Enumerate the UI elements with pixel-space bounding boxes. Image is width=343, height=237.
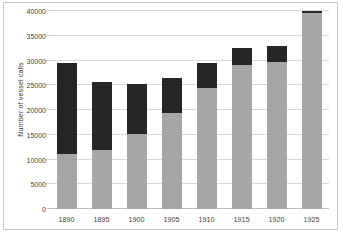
bar-segment-lower[interactable] — [197, 88, 217, 209]
bar-group[interactable]: 1925 — [302, 11, 322, 209]
bar-segment-upper[interactable] — [197, 63, 217, 88]
y-axis-tick-mark — [46, 134, 49, 135]
y-axis-tick-label: 30000 — [6, 58, 46, 65]
x-axis-tick-label: 1915 — [223, 215, 261, 224]
x-axis-tick-label: 1925 — [293, 215, 331, 224]
chart-frame: Number of vessel calls 05000100001500020… — [3, 2, 338, 230]
bar-group[interactable]: 1900 — [127, 11, 147, 209]
x-axis-tick-label: 1920 — [258, 215, 296, 224]
y-axis-tick-mark — [46, 60, 49, 61]
x-axis-tick-label: 1905 — [153, 215, 191, 224]
bar-segment-upper[interactable] — [57, 63, 77, 154]
bar-segment-lower[interactable] — [302, 13, 322, 210]
bar-group[interactable]: 1895 — [92, 11, 112, 209]
y-axis-tick-mark — [46, 159, 49, 160]
bar-segment-lower[interactable] — [232, 65, 252, 209]
bar-segment-lower[interactable] — [92, 150, 112, 209]
bar-segment-lower[interactable] — [57, 154, 77, 209]
bar-group[interactable]: 1890 — [57, 11, 77, 209]
bar-segment-upper[interactable] — [127, 84, 147, 134]
y-axis-tick-mark — [46, 84, 49, 85]
bar-segment-lower[interactable] — [267, 62, 287, 209]
y-axis-tick-label: 35000 — [6, 33, 46, 40]
bar-group[interactable]: 1905 — [162, 11, 182, 209]
y-axis-tick-label: 15000 — [6, 132, 46, 139]
bar-segment-upper[interactable] — [302, 11, 322, 12]
y-axis-tick-label: 40000 — [6, 8, 46, 15]
x-axis-tick-label: 1910 — [188, 215, 226, 224]
bar-segment-lower[interactable] — [162, 113, 182, 209]
bar-group[interactable]: 1915 — [232, 11, 252, 209]
bar-segment-upper[interactable] — [92, 82, 112, 149]
bar-group[interactable]: 1920 — [267, 11, 287, 209]
y-axis-tick-label: 0 — [6, 206, 46, 213]
y-axis-tick-label: 5000 — [6, 181, 46, 188]
bar-segment-upper[interactable] — [267, 46, 287, 62]
bar-segment-lower[interactable] — [127, 134, 147, 209]
plot-area: 0500010000150002000025000300003500040000… — [49, 11, 329, 209]
bar-segment-upper[interactable] — [162, 78, 182, 113]
y-axis-tick-label: 25000 — [6, 82, 46, 89]
y-axis-tick-mark — [46, 35, 49, 36]
x-axis-tick-label: 1890 — [48, 215, 86, 224]
bar-segment-upper[interactable] — [232, 48, 252, 66]
y-axis-tick-label: 10000 — [6, 157, 46, 164]
y-axis-tick-mark — [46, 10, 49, 11]
y-axis-tick-mark — [46, 183, 49, 184]
y-axis-tick-label: 20000 — [6, 107, 46, 114]
y-axis-tick-mark — [46, 109, 49, 110]
bar-group[interactable]: 1910 — [197, 11, 217, 209]
x-axis-tick-label: 1895 — [83, 215, 121, 224]
x-axis-tick-label: 1900 — [118, 215, 156, 224]
